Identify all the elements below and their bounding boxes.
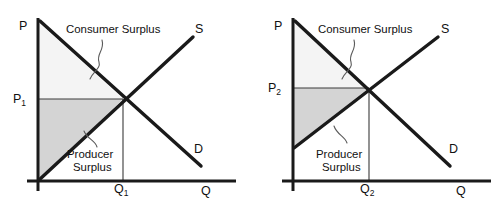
equilibrium-quantity-label: Q1	[114, 182, 129, 198]
price-axis-label: P	[19, 19, 27, 33]
producer-surplus-label-line2: Surplus	[73, 161, 112, 173]
producer-surplus-label-line2: Surplus	[322, 161, 361, 173]
equilibrium-price-label: P1	[13, 92, 26, 108]
equilibrium-price-label: P2	[268, 81, 281, 97]
demand-curve-label: D	[449, 142, 458, 156]
quantity-axis-label: Q	[201, 184, 211, 198]
price-axis-label: P	[274, 19, 282, 33]
consumer-surplus-label: Consumer Surplus	[318, 23, 413, 35]
consumer-surplus-label: Consumer Surplus	[66, 23, 161, 35]
producer-surplus-label-line1: Producer	[67, 148, 113, 160]
demand-curve-label: D	[194, 142, 203, 156]
right-panel-svg: P Q P2 Q2 S D Consumer Surplus Producer …	[249, 0, 499, 207]
left-panel-svg: P Q P1 Q1 S D Consumer Surplus Producer …	[0, 0, 249, 207]
producer-surplus-pointer	[334, 126, 347, 143]
supply-curve-label: S	[195, 22, 203, 36]
diagram-canvas: P Q P1 Q1 S D Consumer Surplus Producer …	[0, 0, 499, 207]
left-panel: P Q P1 Q1 S D Consumer Surplus Producer …	[0, 0, 249, 207]
right-panel: P Q P2 Q2 S D Consumer Surplus Producer …	[249, 0, 499, 207]
supply-curve-label: S	[441, 22, 449, 36]
equilibrium-quantity-label: Q2	[360, 182, 375, 198]
quantity-axis-label: Q	[456, 184, 466, 198]
producer-surplus-label-line1: Producer	[316, 148, 362, 160]
